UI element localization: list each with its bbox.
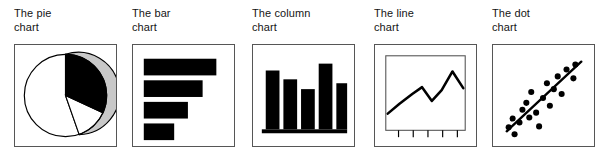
- column-chart-box: [252, 44, 355, 147]
- column-4: [319, 64, 333, 130]
- dot-point: [533, 110, 539, 116]
- dot-chart-graphic: [493, 45, 594, 146]
- bar-2: [144, 80, 203, 97]
- dot-point: [551, 86, 557, 92]
- line-chart-series: [388, 71, 464, 113]
- column-5: [336, 83, 347, 129]
- dot-point: [528, 89, 534, 95]
- bar-chart-graphic: [133, 45, 234, 146]
- line-chart-graphic: [375, 45, 476, 146]
- panel-dot-chart: The dot chart: [478, 0, 598, 154]
- chart-types-sheet: The pie chart The bar chart: [0, 0, 599, 154]
- panel-bar-chart: The bar chart: [118, 0, 238, 154]
- bar-1: [144, 59, 217, 76]
- bar-3: [144, 102, 188, 119]
- dot-point: [510, 116, 516, 122]
- line-chart-box: [374, 44, 477, 147]
- bar-chart-box: [132, 44, 235, 147]
- dot-point: [544, 80, 550, 86]
- panel-pie-chart: The pie chart: [0, 0, 120, 154]
- line-chart-x-ticks: [399, 130, 458, 137]
- dot-point: [526, 115, 532, 121]
- dot-point: [564, 66, 570, 72]
- dot-chart-box: [492, 44, 595, 147]
- dot-point: [536, 123, 542, 129]
- column-chart-baseline: [262, 129, 347, 133]
- dot-point: [555, 73, 561, 79]
- column-3: [301, 89, 315, 129]
- dot-point: [570, 75, 576, 81]
- dot-point: [519, 107, 525, 113]
- dot-point: [523, 100, 529, 106]
- dot-chart-title: The dot chart: [492, 6, 599, 34]
- dot-point: [559, 91, 565, 97]
- pie-chart-graphic: [15, 45, 116, 146]
- dot-point: [547, 103, 553, 109]
- column-1: [266, 70, 280, 129]
- pie-chart-box: [14, 44, 117, 147]
- panel-line-chart: The line chart: [360, 0, 480, 154]
- line-chart-title: The line chart: [374, 6, 484, 34]
- bar-chart-title: The bar chart: [132, 6, 242, 34]
- dot-point: [516, 119, 522, 125]
- dot-point: [512, 131, 518, 137]
- dot-point: [506, 124, 512, 130]
- bar-4: [144, 123, 174, 140]
- column-chart-title: The column chart: [252, 6, 362, 34]
- panel-column-chart: The column chart: [238, 0, 358, 154]
- pie-chart-title: The pie chart: [14, 6, 124, 34]
- column-chart-graphic: [253, 45, 354, 146]
- column-2: [283, 79, 297, 129]
- dot-point: [572, 62, 578, 68]
- dot-point: [540, 95, 546, 101]
